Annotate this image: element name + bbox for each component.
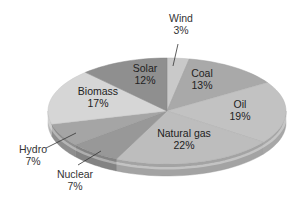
label-coal: Coal13% [191,67,213,91]
label-name: Solar [133,62,158,74]
label-percent: 7% [25,155,40,167]
label-percent: 12% [134,74,155,86]
label-name: Natural gas [157,127,211,139]
label-percent: 3% [173,24,188,36]
label-nuclear: Nuclear7% [57,168,94,192]
label-name: Hydro [19,143,47,155]
label-hydro: Hydro7% [19,143,47,167]
label-percent: 22% [173,139,194,151]
label-percent: 19% [229,110,250,122]
label-name: Biomass [78,85,118,97]
label-percent: 7% [67,180,82,192]
label-wind: Wind3% [169,12,193,36]
label-name: Nuclear [57,168,94,180]
label-name: Coal [191,67,213,79]
label-percent: 13% [191,79,212,91]
label-percent: 17% [87,97,108,109]
pie-chart: Wind3%Coal13%Oil19%Natural gas22%Nuclear… [0,0,303,205]
label-solar: Solar12% [133,62,158,86]
label-name: Oil [234,98,247,110]
label-name: Wind [169,12,193,24]
